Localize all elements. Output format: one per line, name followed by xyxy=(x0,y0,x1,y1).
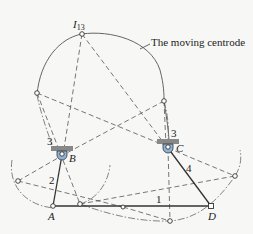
joint-d xyxy=(209,204,214,209)
fixed-centrode-bottom-arc xyxy=(80,150,241,221)
joint-label-b: B xyxy=(69,152,76,164)
construction-line xyxy=(37,93,166,146)
construction-line xyxy=(63,101,164,155)
locus-point-on-ad xyxy=(121,205,125,209)
link-label-4: 4 xyxy=(186,162,192,174)
centrode-point-left xyxy=(35,91,40,96)
joint-label-c: C xyxy=(176,142,184,154)
fixed-centrode-left-arc xyxy=(11,160,53,208)
link-label-2: 2 xyxy=(49,174,55,186)
joint-label-d: D xyxy=(207,210,216,222)
construction-line xyxy=(82,34,166,146)
joint-label-a: A xyxy=(47,210,55,222)
centrode-point-right xyxy=(162,99,167,104)
construction-line xyxy=(123,207,170,221)
link-label-1: 1 xyxy=(156,193,162,205)
locus-point-left xyxy=(16,179,21,184)
locus-point-near-a xyxy=(78,202,83,207)
construction-line xyxy=(168,148,170,221)
link-rocker-CD xyxy=(168,148,211,206)
moving-centrode-annotation: The moving centrode xyxy=(151,36,245,48)
construction-line xyxy=(63,34,82,155)
centrode-diagram: I13 The moving centrode 3 B 2 A 1 D 3 C … xyxy=(0,0,253,234)
locus-point-bottom xyxy=(168,219,173,224)
construction-line xyxy=(18,155,63,181)
link-label-3-at-b: 3 xyxy=(47,135,53,147)
locus-point-right xyxy=(233,174,238,179)
link-label-3-at-c: 3 xyxy=(171,127,177,139)
locus-arc-b xyxy=(80,165,110,204)
construction-line xyxy=(18,181,123,207)
joint-a xyxy=(51,204,56,209)
instant-center-point xyxy=(80,32,85,37)
instant-center-label: I13 xyxy=(72,18,85,32)
